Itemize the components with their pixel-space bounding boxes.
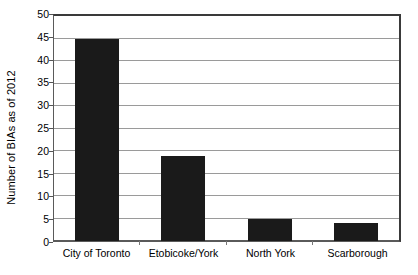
x-axis-category-label: North York — [227, 246, 314, 266]
bar-slot — [140, 16, 226, 241]
x-axis-category-label: City of Toronto — [53, 246, 140, 266]
y-axis-tick-labels: 05101520253035404550 — [22, 14, 49, 242]
y-axis-tick-label: 45 — [22, 32, 49, 43]
y-axis-tick-label: 40 — [22, 54, 49, 65]
x-axis-tick-mark — [226, 241, 227, 245]
bar — [161, 156, 205, 242]
y-axis-tick-label: 5 — [22, 214, 49, 225]
x-axis-category-labels: City of TorontoEtobicoke/YorkNorth YorkS… — [53, 246, 401, 266]
x-axis-category-label: Scarborough — [314, 246, 401, 266]
y-axis-tick-label: 30 — [22, 100, 49, 111]
y-axis-tick-mark — [49, 242, 53, 243]
y-axis-tick-label: 50 — [22, 9, 49, 20]
plot-area — [53, 14, 401, 242]
y-axis-tick-label: 35 — [22, 77, 49, 88]
bar — [334, 223, 378, 241]
bar — [248, 219, 292, 242]
bar-series — [54, 16, 399, 241]
bar — [75, 39, 119, 242]
y-axis-tick-label: 25 — [22, 123, 49, 134]
x-axis-category-label: Etobicoke/York — [140, 246, 227, 266]
x-axis-tick-mark — [312, 241, 313, 245]
bar-slot — [313, 16, 399, 241]
y-axis-title: Number of BIAs as of 2012 — [0, 0, 22, 275]
y-axis-tick-label: 20 — [22, 146, 49, 157]
y-axis-tick-label: 10 — [22, 191, 49, 202]
x-axis-tick-mark — [139, 241, 140, 245]
y-axis-tick-label: 0 — [22, 237, 49, 248]
bar-slot — [227, 16, 313, 241]
bar-slot — [54, 16, 140, 241]
bar-chart-figure: Number of BIAs as of 2012 05101520253035… — [0, 0, 418, 275]
y-axis-tick-label: 15 — [22, 168, 49, 179]
